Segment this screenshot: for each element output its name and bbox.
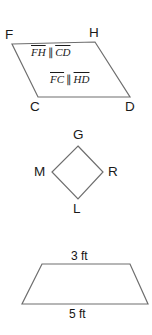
vertex-label-D: D [125,100,135,114]
segment-FH: FH [31,46,46,58]
vertex-label-H: H [89,26,99,40]
trapezoid-bottom-length-label: 5 ft [69,308,86,320]
vertex-label-R: R [108,165,118,179]
segment-HD: HD [74,73,90,85]
figure-shapes-svg [0,0,152,335]
parallelogram-shape [12,42,130,97]
vertex-label-G: G [73,128,84,142]
segment-FC: FC [50,73,64,85]
geometry-figures-image: F H C D FH∥CD FC∥HD G M R L 3 ft 5 ft [0,0,152,335]
parallel-symbol-1: ∥ [46,46,56,58]
parallel-symbol-2: ∥ [64,73,74,85]
trapezoid-top-length-label: 3 ft [71,250,88,262]
parallel-statement-2: FC∥HD [50,74,89,85]
segment-CD: CD [55,46,70,58]
parallel-statement-1: FH∥CD [31,47,70,58]
rhombus-shape [52,146,103,199]
vertex-label-L: L [73,202,81,216]
vertex-label-F: F [5,28,13,42]
trapezoid-shape [22,264,148,304]
vertex-label-M: M [34,165,45,179]
vertex-label-C: C [30,100,40,114]
